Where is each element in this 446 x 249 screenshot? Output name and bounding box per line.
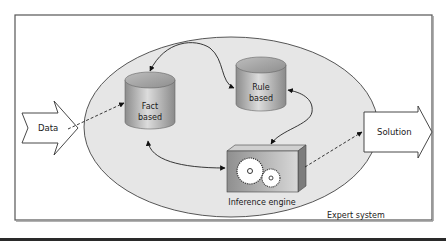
page-edge-shadow [0,238,446,241]
fact-based-database: Fact based [125,72,175,129]
solution-output-arrow: Solution [364,106,432,158]
gear-small-icon [262,169,280,187]
rule-label-line2: based [249,94,273,103]
inference-engine-label: Inference engine [228,198,296,207]
fact-label-line2: based [138,113,162,122]
rule-based-database: Rule based [236,57,286,111]
inference-engine: Inference engine [227,145,306,207]
gear-large-icon [237,158,263,184]
expert-system-diagram: Data Solution Fact based Rule based [0,0,446,249]
solution-label: Solution [377,127,412,137]
expert-system-label: Expert system [327,211,385,220]
rule-label-line1: Rule [252,83,269,92]
data-label: Data [38,123,58,133]
fact-label-line1: Fact [142,102,158,111]
